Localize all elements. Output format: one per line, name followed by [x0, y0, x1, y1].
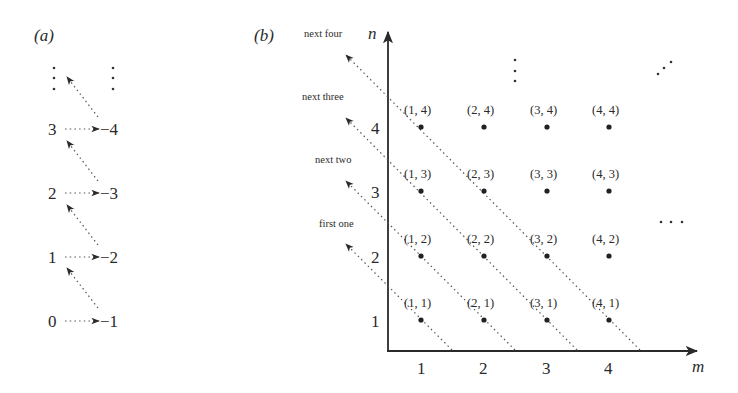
point-label: (2, 2) [467, 232, 494, 246]
panel-b: (b) n m 1 2 3 4 1 2 3 4 first one next t… [254, 24, 704, 378]
x-tick: 2 [479, 359, 488, 378]
point-label: (4, 3) [592, 167, 619, 181]
ellipsis-left-icon [53, 67, 56, 91]
diagonal-label: first one [319, 218, 354, 229]
point-label: (3, 1) [530, 296, 557, 310]
y-tick: 4 [371, 119, 380, 138]
right-value: −3 [100, 184, 118, 203]
point-row-1: (1, 1) (2, 1) (3, 1) (4, 1) [404, 296, 619, 323]
horizontal-ellipsis-icon [660, 221, 684, 224]
diagram-canvas: (a) 3 2 1 0 −4 −3 −2 −1 [0, 0, 738, 393]
point-label: (1, 3) [404, 167, 431, 181]
left-value: 1 [48, 248, 57, 267]
x-axis-label: m [692, 357, 704, 376]
diagonal-label: next two [315, 154, 351, 165]
panel-b-label: (b) [254, 26, 274, 45]
diagonal-label: next four [304, 28, 343, 39]
y-tick: 3 [371, 183, 380, 202]
point-label: (3, 4) [530, 103, 557, 117]
right-value: −1 [100, 312, 118, 331]
right-value: −4 [100, 120, 119, 139]
left-value: 2 [48, 184, 57, 203]
x-tick: 3 [542, 359, 551, 378]
point-label: (2, 4) [467, 103, 494, 117]
ellipsis-right-icon [112, 67, 115, 91]
diagonal-ellipsis-icon [657, 61, 673, 76]
y-axis-label: n [368, 24, 377, 43]
vertical-ellipsis-icon [514, 59, 517, 83]
point-row-4: (1, 4) (2, 4) (3, 4) (4, 4) [404, 103, 619, 130]
point-label: (2, 3) [467, 167, 494, 181]
point-label: (2, 1) [467, 296, 494, 310]
point-label: (3, 3) [530, 167, 557, 181]
diagonal-label: next three [302, 91, 344, 102]
left-value: 0 [48, 312, 57, 331]
y-tick: 1 [371, 312, 380, 331]
point-label: (1, 4) [404, 103, 431, 117]
point-label: (1, 1) [404, 296, 431, 310]
left-value: 3 [48, 120, 57, 139]
point-label: (4, 2) [592, 232, 619, 246]
x-tick: 4 [604, 359, 613, 378]
point-row-2: (1, 2) (2, 2) (3, 2) (4, 2) [404, 232, 619, 259]
horizontal-arrow-icons [65, 129, 99, 321]
point-label: (4, 4) [592, 103, 619, 117]
y-tick: 2 [371, 248, 380, 267]
point-label: (3, 2) [530, 232, 557, 246]
x-tick: 1 [417, 359, 426, 378]
point-label: (1, 2) [404, 232, 431, 246]
panel-a-label: (a) [34, 26, 54, 45]
point-row-3: (1, 3) (2, 3) (3, 3) (4, 3) [404, 167, 619, 194]
panel-a: (a) 3 2 1 0 −4 −3 −2 −1 [34, 26, 119, 331]
point-label: (4, 1) [592, 296, 619, 310]
right-value: −2 [100, 248, 118, 267]
